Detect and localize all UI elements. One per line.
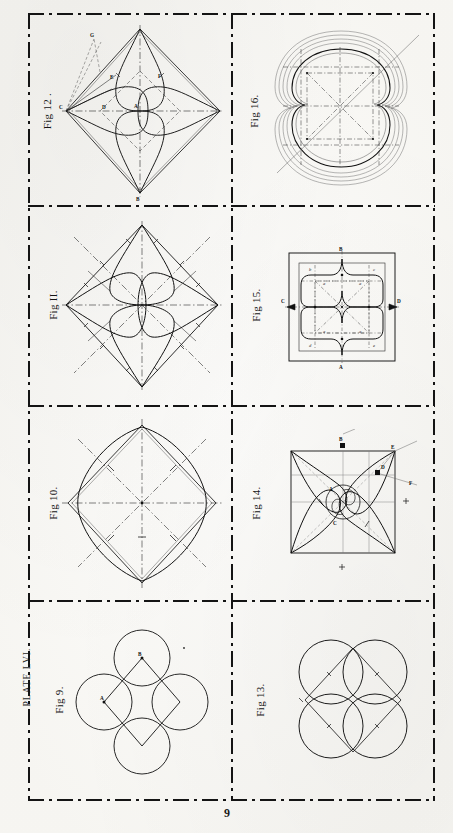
fig13-caption: Fig 13. (254, 677, 266, 723)
fig16-drawing (261, 27, 421, 189)
fig15-label-B: B (339, 246, 343, 252)
figure-cell-fig13: Fig 13. (233, 602, 433, 799)
fig9-drawing: B A (72, 624, 214, 780)
fig14-label-E: E (391, 444, 395, 450)
fig12-label-B: B (136, 196, 140, 202)
figure-cell-fig14: Fig 14. (233, 407, 433, 600)
fig15-label-c: c (373, 267, 375, 272)
fig14-drawing: B E D F A C (277, 429, 417, 577)
fig15-label-A: A (339, 364, 343, 370)
figure-cell-fig15: Fig 15. (233, 207, 433, 405)
fig12-label-F: F (158, 73, 161, 79)
figure-grid: Fig 12 . (28, 13, 435, 801)
figure-cell-fig12: Fig 12 . (28, 13, 231, 205)
plate-page: Plate LVI. 9 Fig 12 . (0, 0, 453, 833)
fig15-label-d: d (309, 343, 312, 348)
fig15-label-e: e (373, 343, 375, 348)
fig14-label-F: F (409, 480, 412, 486)
fig12-label-G: G (90, 32, 94, 38)
fig15-label-a2: a (359, 281, 362, 286)
fig13-drawing (279, 626, 421, 778)
fig12-drawing: G E F C D A B (54, 15, 226, 203)
fig10-drawing (58, 415, 226, 593)
fig16-caption: Fig 16. (248, 88, 260, 134)
fig15-label-a3: a (323, 329, 326, 334)
fig9-caption: Fig 9. (53, 677, 65, 723)
fig14-caption: Fig 14. (250, 480, 262, 526)
fig9-label-A: A (100, 695, 104, 701)
fig14-label-B: B (339, 436, 343, 442)
fig12-label-A: A (134, 103, 138, 109)
fig12-label-E: E (110, 74, 114, 80)
fig14-label-A: A (329, 486, 333, 492)
fig15-drawing: B A C D a a a a b c d e (281, 245, 403, 371)
fig14-label-C: C (333, 520, 337, 526)
fig11-drawing (58, 215, 226, 397)
fig12-label-D: D (102, 104, 106, 110)
fig12-label-C: C (59, 104, 63, 110)
figure-cell-fig11: Fig II. (28, 207, 231, 405)
fig14-label-D: D (381, 464, 385, 470)
fig9-label-B: B (138, 651, 142, 657)
frame-rule-right (433, 13, 435, 801)
fig15-label-C: C (281, 298, 285, 304)
fig15-label-D: D (397, 298, 401, 304)
figure-cell-fig9: Fig 9. (28, 602, 231, 799)
fig12-caption: Fig 12 . (41, 88, 53, 134)
fig15-label-b: b (309, 267, 312, 272)
figure-cell-fig16: Fig 16. (233, 13, 433, 205)
page-number: 9 (224, 806, 230, 821)
fig15-caption: Fig 15. (250, 282, 262, 328)
fig15-label-a1: a (323, 281, 326, 286)
figure-cell-fig10: Fig 10. (28, 407, 231, 600)
